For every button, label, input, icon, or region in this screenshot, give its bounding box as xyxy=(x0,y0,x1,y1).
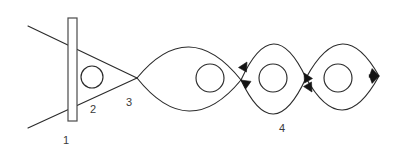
arrow-out-node-2-down-icon xyxy=(304,82,312,92)
lobe-3-lower xyxy=(306,76,379,110)
circle-1 xyxy=(81,66,103,88)
arrow-out-node-1-up-right-icon xyxy=(239,62,247,72)
lobe-2-lower xyxy=(241,78,306,114)
circle-4 xyxy=(324,64,352,92)
circle-2 xyxy=(196,64,224,92)
label-3: 3 xyxy=(126,96,132,108)
lobe-3-upper xyxy=(306,44,379,78)
diagram-canvas: 1 2 3 4 xyxy=(0,0,397,162)
lobe-1-upper xyxy=(137,47,241,80)
field-line-diagram: 1 2 3 4 xyxy=(0,0,397,162)
label-1: 1 xyxy=(63,134,69,146)
label-group: 1 2 3 4 xyxy=(63,96,285,146)
ray-upper xyxy=(28,26,137,78)
ray-lower xyxy=(28,78,137,128)
ray-group xyxy=(28,26,137,128)
label-2: 2 xyxy=(90,103,96,115)
lobe-1-lower xyxy=(137,78,241,111)
circle-3 xyxy=(259,64,287,92)
arrow-into-node-1-down-left-icon xyxy=(241,80,251,89)
label-4: 4 xyxy=(279,122,285,134)
lobe-2-upper xyxy=(241,44,306,80)
lobe-group xyxy=(137,44,379,114)
vertical-plate xyxy=(68,18,77,121)
